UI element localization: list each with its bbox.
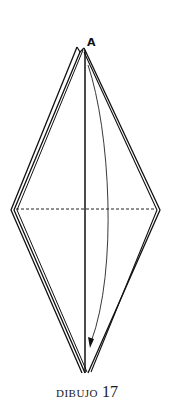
point-label-a: A [87,37,96,48]
left-back-flap-edge [11,47,82,373]
fold-arrow-head [88,337,94,348]
left-inner-edge [17,50,87,372]
figure-caption: DIBUJO 17 [0,384,174,400]
caption-number: 17 [102,383,118,400]
right-inner-edge [84,52,157,372]
right-outer-edge [84,48,160,373]
left-front-flap-edge [14,52,85,373]
origami-fold-diagram [0,0,174,412]
fold-arrow-curve [88,65,108,342]
caption-word: DIBUJO [56,387,98,399]
